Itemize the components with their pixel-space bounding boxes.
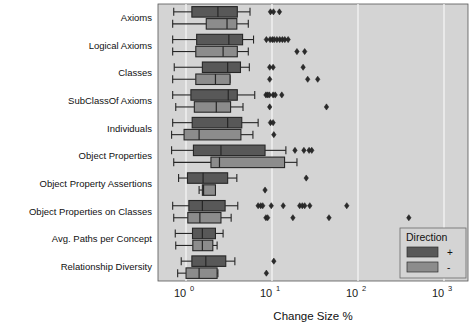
x-tick-base-3: 10	[432, 287, 444, 299]
x-axis-title: Change Size %	[273, 310, 352, 322]
box-body[interactable]	[192, 256, 226, 267]
box-body[interactable]	[211, 157, 285, 168]
category-label-7: Object Properties on Classes	[29, 206, 152, 217]
category-label-2: Classes	[118, 67, 152, 78]
box-body[interactable]	[202, 185, 215, 196]
box-body[interactable]	[192, 7, 237, 18]
legend-swatch-minus[interactable]	[407, 262, 438, 272]
box-body[interactable]	[191, 90, 237, 101]
legend-label-minus: -	[447, 262, 450, 273]
category-label-9: Relationship Diversity	[61, 261, 153, 272]
category-label-3: SubClassOf Axioms	[68, 95, 152, 106]
box-body[interactable]	[197, 34, 243, 45]
category-label-5: Object Properties	[79, 150, 153, 161]
box-body[interactable]	[192, 117, 242, 128]
x-tick-exponent-3: 3	[448, 284, 452, 293]
box-body[interactable]	[188, 213, 221, 224]
box-body[interactable]	[186, 268, 217, 279]
legend-swatch-plus[interactable]	[407, 247, 438, 257]
box-body[interactable]	[206, 19, 237, 30]
legend[interactable]: Direction + -	[400, 228, 466, 278]
category-label-6: Object Property Assertions	[40, 178, 153, 189]
category-label-0: Axioms	[121, 12, 152, 23]
chart-canvas: AxiomsLogical AxiomsClassesSubClassOf Ax…	[0, 0, 475, 328]
x-tick-exponent-0: 0	[190, 284, 194, 293]
box-body[interactable]	[193, 145, 265, 156]
x-tick-exponent-1: 1	[276, 284, 280, 293]
x-tick-base-0: 10	[174, 287, 186, 299]
box-body[interactable]	[194, 102, 230, 113]
category-label-1: Logical Axioms	[89, 40, 153, 51]
legend-label-plus: +	[447, 247, 453, 258]
box-body[interactable]	[189, 201, 225, 212]
x-tick-base-1: 10	[260, 287, 272, 299]
box-body[interactable]	[196, 46, 238, 57]
boxplot-figure: AxiomsLogical AxiomsClassesSubClassOf Ax…	[0, 0, 475, 328]
x-tick-exponent-2: 2	[362, 284, 366, 293]
legend-title: Direction	[406, 231, 448, 243]
category-label-4: Individuals	[107, 123, 152, 134]
x-tick-base-2: 10	[346, 287, 358, 299]
box-body[interactable]	[187, 173, 227, 184]
category-label-8: Avg. Paths per Concept	[52, 233, 153, 244]
box-body[interactable]	[202, 62, 240, 73]
box-body[interactable]	[192, 228, 215, 239]
box-body[interactable]	[184, 129, 241, 140]
box-body[interactable]	[196, 74, 230, 85]
